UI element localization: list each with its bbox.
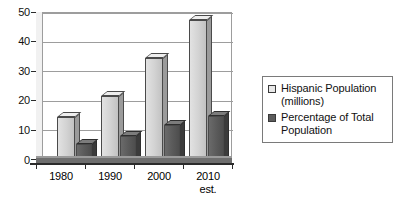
- x-axis-label-2010-sublabel: est.: [185, 183, 231, 195]
- plot-area: [42, 12, 232, 164]
- x-axis-label-1980-text: 1980: [49, 170, 73, 182]
- x-axis-label-2000-text: 2000: [147, 170, 171, 182]
- bar-front-face: [189, 20, 207, 163]
- x-tick-mark-2: [134, 164, 135, 169]
- legend-label-line2: (millions): [281, 95, 324, 107]
- y-tick-label-50: 50: [2, 7, 30, 18]
- bar-1990-hispanic-population: [101, 96, 119, 163]
- x-tick-mark-3: [183, 164, 184, 169]
- legend-label-line1: Hispanic Population: [281, 82, 376, 94]
- x-axis-label-1990: 1990: [87, 170, 133, 182]
- legend-label-line2: Population: [281, 124, 332, 136]
- y-tick-label-10: 10: [2, 125, 30, 136]
- y-tick-label-40: 40: [2, 36, 30, 47]
- bar-2000-hispanic-population: [145, 58, 163, 163]
- chart-legend: Hispanic Population (millions) Percentag…: [262, 76, 393, 143]
- legend-item-hispanic-population: Hispanic Population (millions): [268, 82, 387, 108]
- legend-swatch-icon-percentage-of-total-population: [268, 114, 276, 122]
- legend-label-percentage-of-total-population: Percentage of Total Population: [281, 111, 374, 137]
- y-axis-labels: 50 40 30 20 10 0: [0, 0, 30, 205]
- x-tick-mark-1: [85, 164, 86, 169]
- x-axis-label-2010-text: 2010: [196, 170, 220, 182]
- legend-item-percentage-of-total-population: Percentage of Total Population: [268, 111, 387, 137]
- x-axis-label-2000: 2000: [136, 170, 182, 182]
- x-axis-label-1990-text: 1990: [98, 170, 122, 182]
- bar-front-face: [101, 96, 119, 163]
- legend-swatch-icon-hispanic-population: [268, 85, 276, 93]
- bar-front-face: [145, 58, 163, 163]
- x-tick-mark-0: [36, 164, 37, 169]
- legend-label-line1: Percentage of Total: [281, 111, 374, 123]
- gridline-50: [43, 13, 233, 14]
- x-axis-label-2010: 2010 est.: [185, 170, 231, 195]
- legend-label-hispanic-population: Hispanic Population (millions): [281, 82, 376, 108]
- x-axis-label-1980: 1980: [38, 170, 84, 182]
- bar-2010-hispanic-population: [189, 20, 207, 163]
- y-tick-label-0: 0: [2, 155, 30, 166]
- y-tick-label-20: 20: [2, 95, 30, 106]
- x-tick-mark-4: [232, 164, 233, 169]
- y-tick-label-30: 30: [2, 66, 30, 77]
- bar-chart: 50 40 30 20 10 0: [0, 0, 399, 205]
- x-axis-line: [30, 163, 234, 165]
